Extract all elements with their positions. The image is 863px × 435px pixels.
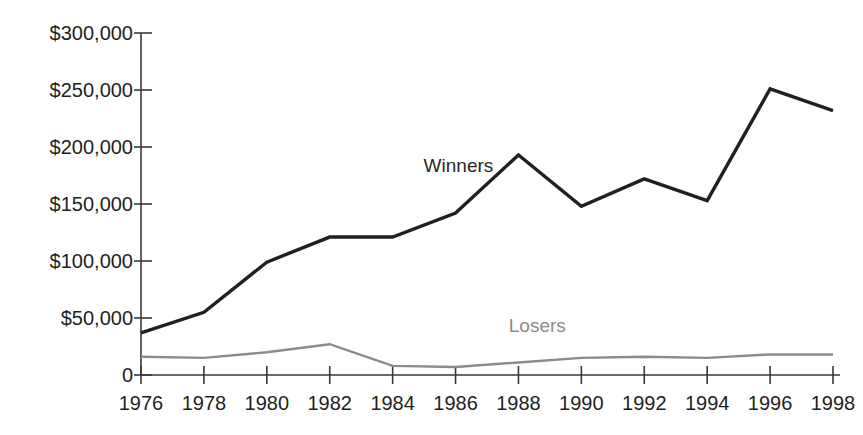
y-axis-tick-label: 0 <box>122 364 133 386</box>
x-axis-tick-label: 1986 <box>433 392 478 414</box>
x-axis-tick-label: 1976 <box>119 392 164 414</box>
y-axis-tick-label: $100,000 <box>50 250 133 272</box>
x-axis-tick-label: 1980 <box>245 392 290 414</box>
y-axis-tick-label: $200,000 <box>50 136 133 158</box>
x-axis-tick-label: 1982 <box>307 392 352 414</box>
x-axis-tick-label: 1992 <box>622 392 667 414</box>
line-chart-figure: 0$50,000$100,000$150,000$200,000$250,000… <box>0 0 863 435</box>
series-label-losers: Losers <box>509 315 566 336</box>
y-axis-tick-label: $50,000 <box>61 307 133 329</box>
x-axis-tick-label: 1994 <box>685 392 730 414</box>
x-axis-tick-label: 1998 <box>811 392 856 414</box>
x-axis-tick-label: 1996 <box>748 392 793 414</box>
y-axis-tick-label: $150,000 <box>50 193 133 215</box>
x-axis-tick-label: 1990 <box>559 392 604 414</box>
series-label-winners: Winners <box>424 155 494 176</box>
y-axis-tick-label: $300,000 <box>50 22 133 44</box>
chart-canvas: 0$50,000$100,000$150,000$200,000$250,000… <box>0 0 863 435</box>
x-axis-tick-label: 1984 <box>370 392 415 414</box>
x-axis-tick-label: 1978 <box>182 392 227 414</box>
x-axis-tick-label: 1988 <box>496 392 541 414</box>
y-axis-tick-label: $250,000 <box>50 79 133 101</box>
